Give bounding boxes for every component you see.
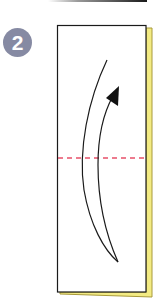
- step-number: 2: [12, 31, 24, 54]
- diagram-canvas: 2: [0, 0, 167, 306]
- step-number-badge: 2: [3, 28, 32, 57]
- paper-sheet: [57, 26, 146, 293]
- previous-step-edge: [48, 0, 147, 2]
